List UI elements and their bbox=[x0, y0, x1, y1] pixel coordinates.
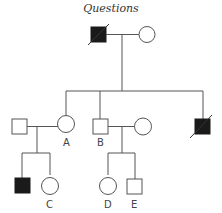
individual-A-female bbox=[58, 116, 75, 133]
label-B: B bbox=[97, 137, 104, 148]
generation-2: A B bbox=[12, 115, 212, 148]
individual-C-female bbox=[42, 178, 59, 195]
individual-I-2-female bbox=[139, 27, 155, 43]
individual-II-1-male bbox=[12, 119, 27, 134]
individual-E-male bbox=[127, 179, 142, 194]
pedigree-chart: A B C D E bbox=[0, 0, 222, 213]
individual-III-1-affected-male bbox=[15, 178, 30, 193]
individual-II-4-female bbox=[135, 118, 152, 135]
label-D: D bbox=[104, 199, 112, 210]
label-E: E bbox=[131, 199, 137, 210]
individual-D-female bbox=[100, 178, 117, 195]
generation-1 bbox=[88, 24, 155, 91]
individual-II-5-affected-male bbox=[195, 119, 210, 134]
label-A: A bbox=[63, 137, 70, 148]
label-C: C bbox=[46, 199, 53, 210]
individual-B-male bbox=[93, 119, 108, 134]
